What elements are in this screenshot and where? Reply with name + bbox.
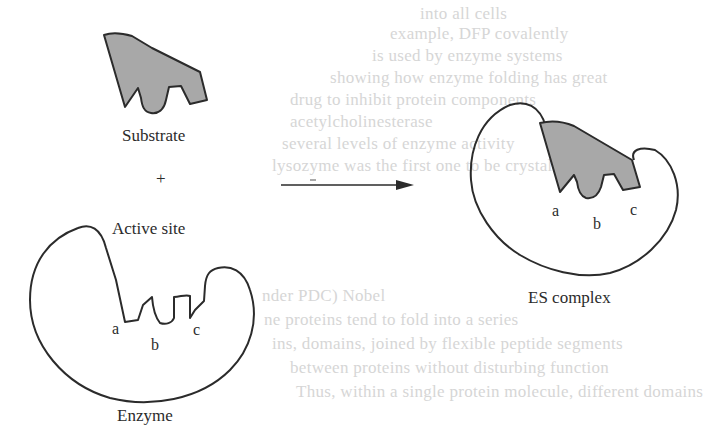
substrate-label: Substrate — [122, 126, 185, 146]
enzyme-site-c-label: c — [193, 321, 200, 339]
enzyme-label: Enzyme — [117, 406, 173, 426]
enzyme-site-b-label: b — [151, 336, 159, 354]
enzyme-shape — [30, 226, 254, 402]
es-complex-substrate-shape — [540, 121, 640, 198]
enzyme-substrate-diagram — [0, 0, 708, 438]
enzyme-site-a-label: a — [112, 320, 119, 338]
substrate-shape — [104, 33, 207, 113]
plus-sign: + — [156, 169, 166, 189]
complex-site-b-label: b — [593, 215, 601, 233]
complex-site-a-label: a — [552, 202, 559, 220]
es-complex-enzyme-shape — [467, 107, 539, 221]
reaction-arrow — [281, 180, 414, 190]
es-complex-label: ES complex — [528, 288, 611, 308]
complex-site-c-label: c — [630, 201, 637, 219]
active-site-label: Active site — [112, 219, 185, 239]
